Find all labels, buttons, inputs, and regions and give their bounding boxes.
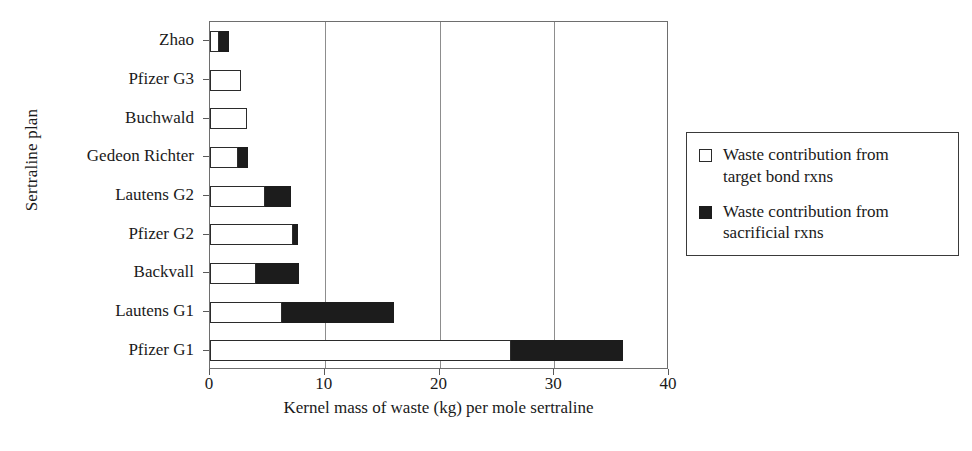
y-axis-category-label: Pfizer G2 (0, 225, 194, 242)
y-axis-category-label: Gedeon Richter (0, 147, 194, 164)
bar-segment (210, 186, 265, 207)
x-axis-tick-labels: 010203040 (0, 374, 972, 398)
legend-label: Waste contribution fromsacrificial rxns (723, 201, 889, 245)
legend-entry: Waste contribution fromsacrificial rxns (699, 201, 948, 245)
bar-segment (210, 302, 282, 323)
bar-segment (210, 263, 256, 284)
legend-label: Waste contribution fromtarget bond rxns (723, 144, 889, 188)
legend-swatch-black (699, 206, 712, 219)
plot-area (209, 21, 668, 369)
chart-legend: Waste contribution fromtarget bond rxnsW… (686, 132, 959, 256)
bar-row (210, 302, 669, 323)
bar-segment (293, 224, 299, 245)
bar-segment (210, 224, 293, 245)
legend-entry: Waste contribution fromtarget bond rxns (699, 144, 948, 188)
y-axis-category-label: Lautens G2 (0, 186, 194, 203)
bar-segment (210, 70, 241, 91)
bar-row (210, 147, 669, 168)
bar-row (210, 108, 669, 129)
x-axis-tick-label: 10 (294, 374, 354, 394)
x-axis-tick-label: 30 (523, 374, 583, 394)
legend-swatch-white (699, 149, 712, 162)
bar-segment (210, 147, 238, 168)
bar-segment (210, 108, 247, 129)
bar-row (210, 263, 669, 284)
bar-segment (210, 340, 511, 361)
x-axis-tick-label: 20 (409, 374, 469, 394)
bar-segment (210, 31, 219, 52)
bar-segment (238, 147, 248, 168)
y-axis-category-label: Pfizer G3 (0, 70, 194, 87)
bar-segment (511, 340, 623, 361)
y-axis-category-label: Buchwald (0, 109, 194, 126)
x-axis-tick-label: 0 (179, 374, 239, 394)
y-axis-category-label: Lautens G1 (0, 302, 194, 319)
x-axis-tick-label: 40 (638, 374, 698, 394)
bar-row (210, 224, 669, 245)
bar-row (210, 31, 669, 52)
bar-segment (256, 263, 300, 284)
bar-segment (282, 302, 393, 323)
y-axis-category-labels: ZhaoPfizer G3BuchwaldGedeon RichterLaute… (0, 21, 202, 369)
bar-segment (219, 31, 229, 52)
x-axis-title: Kernel mass of waste (kg) per mole sertr… (209, 398, 668, 418)
bar-row (210, 186, 669, 207)
y-axis-category-label: Pfizer G1 (0, 341, 194, 358)
bar-row (210, 70, 669, 91)
bar-segment (265, 186, 291, 207)
bar-chart: Sertraline plan ZhaoPfizer G3BuchwaldGed… (0, 0, 972, 451)
y-axis-category-label: Zhao (0, 31, 194, 48)
bar-row (210, 340, 669, 361)
y-axis-category-label: Backvall (0, 263, 194, 280)
